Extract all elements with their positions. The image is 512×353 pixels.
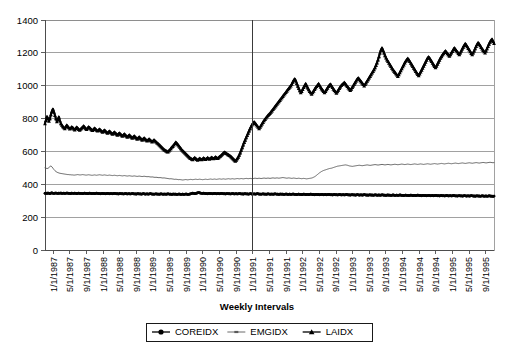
x-tick-label: 1/1/1990 (198, 257, 208, 292)
x-tick-label: 9/1/1988 (132, 257, 142, 292)
x-tick-label: 1/1/1994 (398, 257, 408, 292)
x-tick-label: 9/1/1990 (232, 257, 242, 292)
y-tick-label: 600 (22, 146, 38, 157)
y-tick-label: 1400 (17, 15, 38, 26)
x-tick-label: 9/1/1992 (331, 257, 341, 292)
legend-label: EMGIDX (250, 326, 288, 337)
x-tick-label: 5/1/1987 (65, 257, 75, 292)
x-tick-label: 5/1/1994 (415, 257, 425, 292)
x-tick-label: 9/1/1987 (82, 257, 92, 292)
y-tick-label: 1000 (17, 80, 38, 91)
x-tick-label: 1/1/1993 (348, 257, 358, 292)
y-tick-label: 1200 (17, 47, 38, 58)
x-tick-label: 9/1/1989 (182, 257, 192, 292)
x-tick-label: 5/1/1992 (315, 257, 325, 292)
x-tick-label: 1/1/1988 (99, 257, 109, 292)
x-tick-label: 1/1/1991 (248, 257, 258, 292)
chart-figure: 0200400600800100012001400 1/1/19875/1/19… (0, 0, 512, 353)
x-tick-label: 5/1/1989 (165, 257, 175, 292)
marker-circle (493, 195, 496, 198)
x-tick-label: 5/1/1995 (464, 257, 474, 292)
x-tick-label: 1/1/1992 (298, 257, 308, 292)
legend-label: COREIDX (175, 326, 219, 337)
y-tick-label: 200 (22, 212, 38, 223)
x-tick-label: 1/1/1995 (448, 257, 458, 292)
x-axis-title: Weekly Intervals (220, 301, 294, 312)
x-tick-label: 5/1/1990 (215, 257, 225, 292)
y-tick-label: 0 (33, 245, 38, 256)
x-tick-label: 5/1/1988 (115, 257, 125, 292)
x-tick-label: 9/1/1993 (381, 257, 391, 292)
y-tick-label: 800 (22, 113, 38, 124)
x-tick-label: 9/1/1995 (481, 257, 491, 292)
x-tick-label: 5/1/1993 (365, 257, 375, 292)
legend-label: LAIDX (326, 326, 354, 337)
x-tick-label: 9/1/1991 (282, 257, 292, 292)
chart-canvas: 0200400600800100012001400 1/1/19875/1/19… (0, 0, 512, 353)
y-tick-label: 400 (22, 179, 38, 190)
circle-marker-icon (158, 329, 163, 334)
x-tick-label: 5/1/1991 (265, 257, 275, 292)
x-tick-label: 1/1/1989 (148, 257, 158, 292)
x-tick-label: 1/1/1987 (49, 257, 59, 292)
x-tick-label: 9/1/1994 (431, 257, 441, 292)
chart-legend: COREIDXEMGIDXLAIDX (146, 323, 372, 341)
